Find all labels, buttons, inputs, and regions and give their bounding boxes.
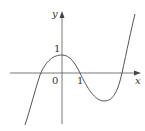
y-tick-label: 1: [54, 43, 60, 54]
x-axis-label: x: [135, 75, 141, 86]
cubic-graph: y x 0 1 1: [0, 0, 145, 131]
origin-label: 0: [52, 75, 58, 86]
x-tick-label: 1: [77, 75, 83, 86]
y-axis-label: y: [51, 8, 58, 19]
curve: [25, 14, 135, 125]
y-axis-arrow-icon: [60, 11, 65, 18]
